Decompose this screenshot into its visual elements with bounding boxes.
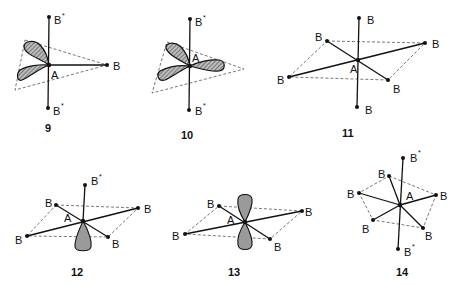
atom-b — [136, 206, 140, 210]
label-b: B — [54, 14, 61, 26]
atom-b — [217, 204, 221, 208]
figure-number: 13 — [228, 266, 240, 278]
figure-11: B B B B A B B 11 — [277, 14, 439, 139]
atom-a — [243, 220, 247, 224]
atom-b-star-bottom — [396, 247, 400, 251]
atom-b-star-bottom — [187, 108, 191, 112]
dashed-pentagon — [359, 176, 436, 228]
label-b: B — [404, 246, 411, 258]
label-b: B — [172, 230, 179, 242]
figure-10: B * A B * 10 — [152, 14, 244, 141]
label-b: B — [378, 168, 385, 180]
figure-number: 11 — [342, 127, 354, 139]
label-b: B — [91, 175, 98, 187]
label-b: B — [315, 31, 322, 43]
atom-a — [188, 64, 192, 68]
label-b: B — [15, 234, 22, 246]
label-b: B — [305, 206, 312, 218]
equatorial-bond — [373, 205, 400, 220]
atom-b — [25, 234, 29, 238]
label-star: * — [61, 102, 64, 109]
orbital-lobe — [18, 65, 49, 81]
label-b: B — [207, 198, 214, 210]
label-star: * — [99, 173, 102, 180]
label-b: B — [45, 197, 52, 209]
label-star: * — [412, 243, 415, 250]
axial-bond — [48, 17, 49, 108]
label-b: B — [195, 105, 202, 117]
label-star: * — [203, 102, 206, 109]
apical-bond — [83, 185, 85, 221]
label-b: B — [367, 14, 374, 26]
figure-number: 14 — [396, 266, 409, 278]
diagram-canvas: B * A B B * 9 B * A B * 10 B — [0, 0, 457, 285]
label-b: B — [440, 190, 447, 202]
figure-13: B A B B B 13 — [172, 195, 312, 279]
label-b: B — [347, 188, 354, 200]
atom-b — [183, 232, 187, 236]
figure-number: 10 — [181, 129, 193, 141]
atom-a — [398, 203, 402, 207]
label-a: A — [64, 212, 72, 224]
label-b: B — [144, 203, 151, 215]
atom-b — [357, 16, 361, 20]
figure-12: B * B B A B B 12 — [15, 173, 151, 278]
label-b: B — [432, 38, 439, 50]
atom-a — [81, 219, 85, 223]
atom-b — [105, 63, 109, 67]
atom-b — [387, 174, 391, 178]
atom-b — [54, 203, 58, 207]
label-b: B — [362, 223, 369, 235]
equatorial-bond — [389, 176, 400, 205]
label-a: A — [192, 52, 200, 64]
label-b: B — [53, 105, 60, 117]
figure-14: B * B B A B B B B * 14 — [347, 149, 447, 278]
label-a: A — [227, 214, 235, 226]
label-b: B — [112, 238, 119, 250]
label-a: A — [350, 63, 358, 75]
label-b: B — [113, 60, 120, 72]
atom-b-star-bottom — [46, 106, 50, 110]
atom-b — [287, 75, 291, 79]
label-b: B — [393, 83, 400, 95]
label-b: B — [365, 104, 372, 116]
equatorial-bond — [359, 193, 400, 205]
orbital-lobe — [24, 41, 49, 65]
label-a: A — [406, 190, 414, 202]
atom-b-star-top — [401, 156, 405, 160]
label-a: A — [51, 69, 59, 81]
atom-b — [434, 193, 438, 197]
atom-a — [356, 58, 360, 62]
atom-b — [325, 39, 329, 43]
atom-b-star — [83, 183, 87, 187]
atom-b — [300, 209, 304, 213]
figure-number: 12 — [71, 266, 83, 278]
atom-b — [386, 78, 390, 82]
atom-b — [357, 191, 361, 195]
label-b: B — [277, 74, 284, 86]
figure-number: 9 — [45, 122, 51, 134]
orbital-lobe — [158, 66, 190, 81]
label-b: B — [425, 230, 432, 242]
orbital-lobe — [166, 43, 190, 66]
label-star: * — [62, 12, 65, 19]
atom-a — [47, 63, 51, 67]
orbital-lobe — [238, 195, 252, 223]
atom-b — [355, 105, 359, 109]
atom-b — [371, 218, 375, 222]
atom-b-star-top — [188, 17, 192, 21]
atom-b-star-top — [47, 15, 51, 19]
label-b: B — [274, 241, 281, 253]
label-b: B — [195, 16, 202, 28]
figure-9: B * A B B * 9 — [15, 12, 120, 134]
atom-b — [423, 41, 427, 45]
label-b: B — [410, 152, 417, 164]
atom-b — [106, 235, 110, 239]
atom-b — [268, 237, 272, 241]
label-star: * — [203, 14, 206, 21]
label-star: * — [418, 149, 421, 156]
